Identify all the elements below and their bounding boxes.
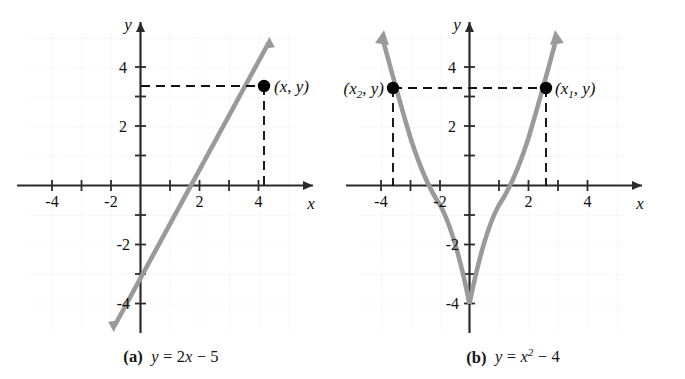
x-tick-label--2: -2 [104,193,117,210]
panel-b-tag: (b) [466,347,486,366]
x-tick-label-2: 2 [525,193,533,210]
point-label-x1y: (x1, y) [555,79,596,100]
y-tick-label-2: 2 [119,118,127,135]
panel-a-plot: -4 -2 2 4 4 2 -2 -4 x y (x, y) [0,0,342,340]
y-axis-label: y [122,15,132,34]
y-axis-arrow [465,22,474,32]
x-tick-label-4: 4 [584,193,592,210]
x-axis-label: x [306,194,315,213]
graph-parabola: -4 -2 2 4 4 2 -2 -4 x y (x2, y) (x1, y) [342,0,684,340]
y-tick-label--4: -4 [446,295,459,312]
y-tick-label-2: 2 [448,118,456,135]
figure-container: -4 -2 2 4 4 2 -2 -4 x y (x, y) (a) y = 2… [0,0,685,379]
y-axis-label: y [451,15,461,34]
x-axis-arrow [303,181,313,190]
y-tick-label--2: -2 [446,236,459,253]
y-tick-label--4: -4 [117,295,130,312]
point-label-x2y: (x2, y) [344,79,385,100]
y-axis-arrow [136,22,145,32]
x-tick-label--4: -4 [374,193,387,210]
grid [358,33,624,333]
plot-point [258,80,270,92]
x-tick-label-2: 2 [196,193,204,210]
point-label-xy: (x, y) [274,77,309,96]
panel-b: -4 -2 2 4 4 2 -2 -4 x y (x2, y) (x1, y) … [342,0,684,379]
grid [29,33,295,333]
panel-b-caption: (b) y = x2 − 4 [342,346,684,368]
x-tick-label--4: -4 [45,193,58,210]
y-tick-label-4: 4 [448,59,456,76]
plot-point-right [540,82,552,94]
x-axis-label: x [635,194,644,213]
x-tick-label-4: 4 [255,193,263,210]
plot-point-left [387,82,399,94]
panel-a-tag: (a) [123,347,143,366]
panel-a-caption: (a) y = 2x − 5 [0,347,342,367]
y-tick-label-4: 4 [119,59,127,76]
x-tick-label--2: -2 [433,193,446,210]
y-tick-label--2: -2 [117,236,130,253]
x-axis-arrow [632,181,642,190]
panel-b-equation: y = x2 − 4 [491,347,560,366]
panel-b-plot: -4 -2 2 4 4 2 -2 -4 x y (x2, y) (x1, y) [342,0,684,340]
graph-linear: -4 -2 2 4 4 2 -2 -4 x y (x, y) [0,0,342,340]
panel-a-equation: y = 2x − 5 [147,347,219,366]
panel-a: -4 -2 2 4 4 2 -2 -4 x y (x, y) (a) y = 2… [0,0,342,379]
